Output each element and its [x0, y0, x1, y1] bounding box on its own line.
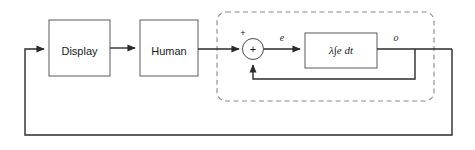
- summing-junction-symbol: +: [250, 43, 256, 55]
- integrator-block-label: λ∫e dt: [328, 44, 354, 57]
- output-signal-label: o: [394, 32, 399, 43]
- summing-junction-plus-sign: +: [240, 28, 245, 38]
- display-block-label: Display: [61, 45, 98, 57]
- block-diagram: Display Human + + e λ∫e dt o: [0, 0, 475, 150]
- error-signal-label: e: [280, 32, 285, 43]
- block-diagram-canvas: Display Human + + e λ∫e dt o: [0, 0, 475, 150]
- human-block-label: Human: [151, 45, 186, 57]
